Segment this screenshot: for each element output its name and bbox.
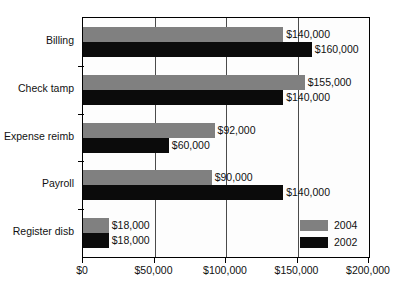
bar-group: $155,000$140,000 bbox=[83, 75, 369, 105]
bar-chart: $140,000$160,000$155,000$140,000$92,000$… bbox=[0, 0, 398, 282]
legend-item-2004: 2004 bbox=[300, 218, 357, 232]
bar-group: $92,000$60,000 bbox=[83, 123, 369, 153]
x-axis-tick bbox=[82, 258, 83, 263]
bar-2004 bbox=[83, 123, 215, 138]
category-tick bbox=[78, 114, 84, 115]
legend-swatch-2004 bbox=[300, 220, 328, 231]
legend-swatch-2002 bbox=[300, 237, 328, 248]
category-tick bbox=[78, 66, 84, 67]
x-axis-tick bbox=[368, 258, 369, 263]
bar-2004 bbox=[83, 170, 212, 185]
category-label-billing: Billing bbox=[46, 34, 74, 46]
bar-value-label: $155,000 bbox=[305, 75, 352, 90]
bar-group: $140,000$160,000 bbox=[83, 27, 369, 57]
bar-value-label: $140,000 bbox=[283, 185, 330, 200]
legend-label-2002: 2002 bbox=[334, 236, 357, 248]
x-axis-tick bbox=[154, 258, 155, 263]
bar-value-label: $160,000 bbox=[312, 42, 359, 57]
x-axis-tick-label: $200,000 bbox=[346, 264, 390, 276]
category-label-expense-reimb: Expense reimb bbox=[4, 130, 74, 142]
bar-group: $90,000$140,000 bbox=[83, 170, 369, 200]
bar-value-label: $140,000 bbox=[283, 90, 330, 105]
x-axis-tick bbox=[297, 258, 298, 263]
x-axis-tick-label: $150,000 bbox=[275, 264, 319, 276]
x-axis-tick bbox=[225, 258, 226, 263]
category-tick bbox=[78, 209, 84, 210]
bar-2002 bbox=[83, 138, 169, 153]
bar-value-label: $18,000 bbox=[109, 233, 150, 248]
bar-2004 bbox=[83, 75, 305, 90]
category-label-payroll: Payroll bbox=[42, 177, 74, 189]
bar-2002 bbox=[83, 233, 109, 248]
bar-value-label: $18,000 bbox=[109, 218, 150, 233]
bar-value-label: $140,000 bbox=[283, 27, 330, 42]
x-axis-tick-label: $100,000 bbox=[203, 264, 247, 276]
bar-value-label: $90,000 bbox=[212, 170, 253, 185]
bar-2002 bbox=[83, 90, 283, 105]
x-axis-tick-label: $0 bbox=[76, 264, 88, 276]
category-label-register-disb: Register disb bbox=[13, 225, 74, 237]
x-axis-tick-label: $50,000 bbox=[135, 264, 173, 276]
bar-2002 bbox=[83, 42, 312, 57]
category-tick bbox=[78, 161, 84, 162]
bar-value-label: $92,000 bbox=[215, 123, 256, 138]
bar-2002 bbox=[83, 185, 283, 200]
legend-label-2004: 2004 bbox=[334, 219, 357, 231]
category-label-check-tamp: Check tamp bbox=[18, 82, 74, 94]
bar-2004 bbox=[83, 27, 283, 42]
bar-2004 bbox=[83, 218, 109, 233]
legend: 20042002 bbox=[300, 218, 357, 252]
bar-value-label: $60,000 bbox=[169, 138, 210, 153]
legend-item-2002: 2002 bbox=[300, 235, 357, 249]
